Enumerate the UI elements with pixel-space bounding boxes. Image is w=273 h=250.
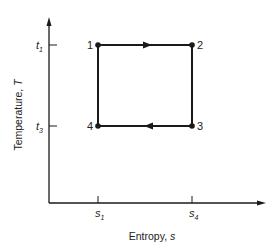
state-point-3 (189, 123, 195, 129)
arrow-right-icon (143, 42, 152, 49)
state-point-1 (95, 42, 101, 48)
state-label-2: 2 (197, 39, 203, 51)
x-axis-arrow-icon (257, 201, 266, 206)
y-axis-arrow-icon (47, 17, 52, 26)
state-label-3: 3 (197, 120, 203, 132)
y-axis-label: Temperature, T (12, 78, 24, 151)
state-point-4 (95, 123, 101, 129)
x-tick-label-s4: s4 (189, 207, 199, 221)
state-point-2 (189, 42, 195, 48)
ts-diagram: t1 t3 s1 s4 Entropy, s Temperature, T 1 … (0, 0, 273, 250)
state-label-1: 1 (87, 39, 93, 51)
y-tick-label-t1: t1 (36, 39, 43, 53)
x-tick-label-s1: s1 (95, 207, 105, 221)
x-axis-label: Entropy, s (129, 230, 176, 242)
state-label-4: 4 (87, 120, 93, 132)
arrow-left-icon (144, 123, 153, 130)
y-tick-label-t3: t3 (36, 120, 43, 134)
